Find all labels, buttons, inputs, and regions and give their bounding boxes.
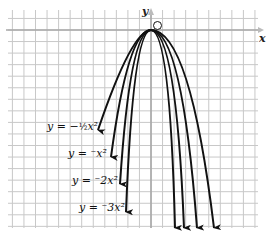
y-axis-label: y — [142, 5, 148, 18]
y-axis-arrow — [148, 8, 154, 15]
origin-marker — [153, 21, 162, 30]
parabola-diagram: y x y = −½x² y = ⁻x² y = ⁻2x² y = ⁻3x² — [0, 0, 267, 236]
curve-label-one: y = ⁻x² — [68, 148, 107, 159]
curves — [98, 30, 214, 228]
curve-label-two: y = ⁻2x² — [72, 175, 118, 186]
curve-label-half-tail: x² — [87, 120, 98, 133]
curve-three-left — [126, 30, 151, 212]
graph-canvas — [0, 0, 267, 236]
grid — [8, 10, 258, 228]
curve-label-half: y = −½x² — [47, 121, 98, 132]
curve-label-half-prefix: y = − — [47, 120, 79, 133]
x-axis-label: x — [259, 32, 266, 45]
curve-label-three: y = ⁻3x² — [79, 202, 125, 213]
